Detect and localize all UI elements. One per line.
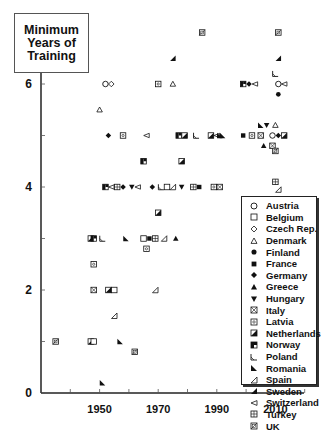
legend-label: UK bbox=[266, 421, 280, 432]
data-point-italy bbox=[91, 287, 97, 293]
legend-label: Greece bbox=[266, 281, 298, 292]
data-point-france bbox=[241, 133, 245, 137]
legend-item-italy: Italy bbox=[242, 304, 316, 316]
x-tick-label: 1950 bbox=[87, 403, 111, 415]
legend-label: Finland bbox=[266, 247, 300, 258]
legend-item-finland: Finland bbox=[242, 246, 316, 258]
wedge-open-icon bbox=[248, 375, 260, 385]
data-point-switzerland bbox=[281, 82, 287, 86]
legend-item-romania: Romania bbox=[242, 362, 316, 374]
data-point-norway bbox=[176, 133, 182, 139]
data-point-sweden bbox=[170, 56, 176, 62]
y-axis-title-box: Minimum Years of Training bbox=[14, 13, 89, 73]
data-point-austria bbox=[103, 81, 109, 87]
data-point-turkey bbox=[153, 236, 159, 242]
legend-item-denmark: Denmark bbox=[242, 235, 316, 247]
data-point-netherlands bbox=[208, 133, 214, 139]
legend-label: Switzerland bbox=[266, 397, 319, 408]
legend-item-austria: Austria bbox=[242, 200, 316, 212]
legend-item-netherlands: Netherlands bbox=[242, 328, 316, 340]
data-point-romania bbox=[258, 122, 264, 128]
legend-item-norway: Norway bbox=[242, 339, 316, 351]
data-point-netherlands bbox=[179, 159, 185, 165]
square-slash-icon bbox=[248, 421, 260, 431]
legend-label: Italy bbox=[266, 305, 285, 316]
data-point-switzerland bbox=[144, 133, 150, 137]
legend-item-turkey: Turkey bbox=[242, 409, 316, 421]
data-point-germany bbox=[150, 184, 156, 190]
square-grid-icon bbox=[248, 409, 260, 419]
y-tick-label: 4 bbox=[25, 180, 32, 194]
legend-item-spain: Spain bbox=[242, 374, 316, 386]
data-point-uk bbox=[132, 349, 138, 355]
data-point-netherlands bbox=[106, 287, 112, 293]
data-point-uk bbox=[199, 30, 205, 36]
data-point-poland bbox=[158, 184, 164, 190]
circle-open-icon bbox=[248, 201, 260, 211]
legend-label: Norway bbox=[266, 339, 300, 350]
data-point-greece bbox=[173, 236, 179, 241]
data-point-hungary bbox=[129, 185, 135, 190]
x-tick-label: 1970 bbox=[146, 403, 170, 415]
legend-label: Belgium bbox=[266, 212, 303, 223]
data-point-netherlands bbox=[281, 133, 287, 139]
data-point-spain bbox=[161, 236, 167, 242]
legend-item-sweden: Sweden bbox=[242, 386, 316, 398]
legend-item-france: France bbox=[242, 258, 316, 270]
legend-item-hungary: Hungary bbox=[242, 293, 316, 305]
diamond-filled-icon bbox=[248, 270, 260, 280]
legend-label: Germany bbox=[266, 270, 307, 281]
data-point-spain bbox=[170, 184, 176, 190]
data-point-norway bbox=[91, 236, 97, 242]
data-point-belgium bbox=[91, 339, 97, 345]
y-tick-label: 6 bbox=[25, 77, 32, 91]
wedge-filled-icon bbox=[248, 386, 260, 396]
data-point-denmark bbox=[170, 81, 176, 86]
data-point-norway bbox=[141, 159, 147, 165]
data-point-spain bbox=[153, 287, 159, 293]
legend-label: Spain bbox=[266, 374, 292, 385]
legend-label: France bbox=[266, 258, 297, 269]
data-point-latvia bbox=[249, 133, 255, 139]
legend-label: Netherlands bbox=[266, 328, 321, 339]
legend-item-germany: Germany bbox=[242, 270, 316, 282]
legend-item-poland: Poland bbox=[242, 351, 316, 363]
data-point-hungary bbox=[264, 123, 270, 128]
corner-filled-icon bbox=[248, 363, 260, 373]
data-point-hungary bbox=[179, 185, 185, 190]
legend-item-czech-rep: Czech Rep. bbox=[242, 223, 316, 235]
data-point-netherlands bbox=[155, 210, 161, 216]
y-tick-label: 0 bbox=[25, 386, 32, 400]
square-dot-icon bbox=[248, 317, 260, 327]
data-point-romania bbox=[100, 380, 106, 386]
legend-item-switzerland: Switzerland bbox=[242, 397, 316, 409]
data-point-turkey bbox=[273, 179, 279, 185]
legend-item-greece: Greece bbox=[242, 281, 316, 293]
data-point-germany bbox=[106, 133, 112, 139]
legend-label: Austria bbox=[266, 200, 299, 211]
data-point-spain bbox=[276, 187, 282, 193]
data-point-romania bbox=[117, 339, 123, 345]
corner-open-icon bbox=[248, 352, 260, 362]
square-open-icon bbox=[248, 212, 260, 222]
legend-label: Romania bbox=[266, 363, 306, 374]
data-point-germany bbox=[246, 81, 252, 87]
data-point-greece bbox=[261, 143, 267, 148]
data-point-poland bbox=[273, 71, 279, 77]
legend-label: Latvia bbox=[266, 316, 293, 327]
data-point-poland bbox=[194, 133, 200, 139]
data-point-poland bbox=[100, 236, 106, 242]
data-point-belgium bbox=[112, 287, 118, 293]
legend-label: Sweden bbox=[266, 386, 302, 397]
y-axis-title-line-3: Training bbox=[24, 50, 79, 63]
x-tick-label: 1990 bbox=[205, 403, 229, 415]
data-point-denmark bbox=[97, 107, 103, 112]
data-point-netherlands bbox=[182, 133, 188, 139]
legend-label: Czech Rep. bbox=[266, 223, 317, 234]
triangle-filled-icon bbox=[248, 282, 260, 292]
data-point-uk bbox=[53, 339, 59, 345]
data-point-latvia bbox=[91, 262, 97, 268]
data-point-uk bbox=[276, 30, 282, 36]
triangle-left-open-icon bbox=[248, 398, 260, 408]
legend-item-latvia: Latvia bbox=[242, 316, 316, 328]
